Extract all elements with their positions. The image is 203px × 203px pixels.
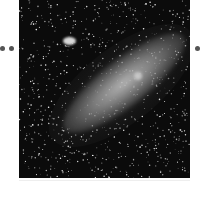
carousel-dot-2[interactable]: [9, 46, 14, 51]
satellite-galaxy: [63, 37, 76, 45]
image-bottom-border: [19, 180, 190, 181]
galaxy-photo: [19, 0, 190, 178]
satellite-galaxy-2: [134, 72, 142, 80]
carousel-dot-1[interactable]: [0, 46, 5, 51]
carousel-dot-next[interactable]: [195, 46, 200, 51]
